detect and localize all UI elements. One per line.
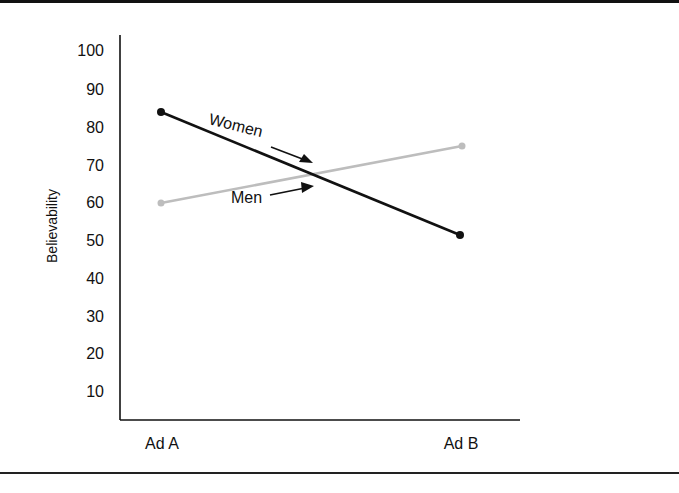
y-tick: 70 [86, 157, 104, 174]
y-tick: 90 [86, 81, 104, 98]
men-point-ad-b [459, 143, 466, 150]
women-point-ad-a [157, 108, 165, 116]
bottom-border-rule [0, 472, 679, 474]
y-axis-label: Believability [44, 189, 60, 263]
y-tick: 80 [86, 119, 104, 136]
y-tick: 20 [86, 345, 104, 362]
men-annotation-label: Men [231, 189, 262, 206]
y-tick: 60 [86, 194, 104, 211]
series-women [157, 108, 464, 239]
women-line [161, 112, 460, 235]
men-point-ad-a [158, 200, 165, 207]
interaction-line-chart: 100 90 80 70 60 50 40 30 20 10 Believabi… [0, 0, 679, 493]
y-tick: 100 [77, 42, 104, 59]
women-point-ad-b [456, 231, 464, 239]
y-tick-labels: 100 90 80 70 60 50 40 30 20 10 [77, 42, 104, 400]
y-tick: 30 [86, 308, 104, 325]
x-category-label: Ad A [145, 435, 179, 452]
y-tick: 50 [86, 232, 104, 249]
men-annotation-arrow-icon [270, 182, 314, 195]
y-tick: 10 [86, 383, 104, 400]
x-category-label: Ad B [444, 435, 479, 452]
y-tick: 40 [86, 270, 104, 287]
